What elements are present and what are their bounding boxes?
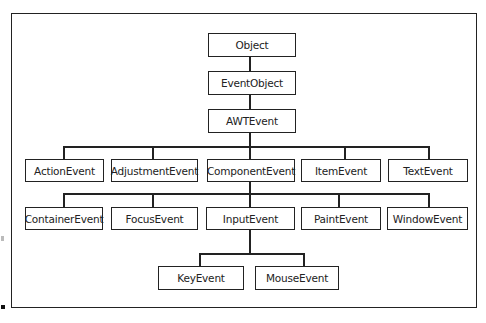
edge-drop-actionevent [63,146,65,159]
node-label: EventObject [221,77,283,89]
edge-drop-focusevent [152,193,154,207]
node-containerevent: ContainerEvent [25,207,103,230]
node-label: FocusEvent [125,213,183,225]
margin-mark-grey [1,236,4,241]
edge-drop-textevent [428,146,430,159]
edge-componentevent-bus [63,193,429,195]
node-label: ActionEvent [34,165,95,177]
node-label: AWTEvent [226,115,278,127]
node-mouseevent: MouseEvent [255,266,339,290]
edge-componentevent-trunk [249,182,251,207]
node-object: Object [208,33,296,57]
edge-inputevent-trunk [249,230,251,254]
node-label: KeyEvent [177,272,225,284]
node-label: ItemEvent [315,165,367,177]
node-label: InputEvent [223,213,278,225]
node-itemevent: ItemEvent [301,159,381,182]
node-focusevent: FocusEvent [111,207,198,230]
node-label: PaintEvent [314,213,368,225]
node-keyevent: KeyEvent [158,266,244,290]
node-label: Object [236,39,269,51]
edge-drop-itemevent [344,146,346,159]
edge-inputevent-bus [199,253,304,255]
node-label: TextEvent [403,165,453,177]
edge-drop-containerevent [63,193,65,207]
node-windowevent: WindowEvent [387,207,468,230]
margin-mark-black [1,305,5,309]
node-label: MouseEvent [266,272,328,284]
node-eventobject: EventObject [208,71,296,95]
edge-drop-adjustmentevent [152,146,154,159]
node-componentevent: ComponentEvent [207,159,295,182]
node-inputevent: InputEvent [206,207,295,230]
node-paintevent: PaintEvent [301,207,381,230]
node-textevent: TextEvent [388,159,468,182]
edge-drop-keyevent [199,253,201,266]
edge-awtevent-bus [63,146,429,148]
edge-eventobject-awtevent [249,95,251,109]
node-awtevent: AWTEvent [208,109,296,133]
node-label: ComponentEvent [207,165,295,177]
edge-drop-mouseevent [303,253,305,266]
edge-drop-paintevent [338,193,340,207]
edge-drop-windowevent [428,193,430,207]
node-actionevent: ActionEvent [25,159,104,182]
edge-object-eventobject [249,57,251,71]
node-label: AdjustmentEvent [111,165,198,177]
node-adjustmentevent: AdjustmentEvent [111,159,198,182]
node-label: WindowEvent [393,213,462,225]
node-label: ContainerEvent [25,213,104,225]
